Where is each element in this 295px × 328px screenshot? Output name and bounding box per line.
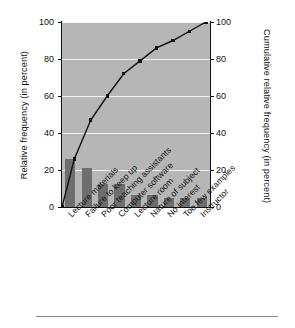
data-point-marker: [138, 59, 141, 62]
y-axis-left-label-text: Relative frequency (in percent): [19, 51, 29, 179]
data-point-marker: [155, 46, 158, 49]
data-point-marker: [106, 94, 109, 97]
data-point-marker: [188, 30, 191, 33]
data-point-marker: [122, 72, 125, 75]
y-axis-right-tick-mark: [211, 96, 214, 97]
footer-divider: [36, 316, 278, 317]
y-axis-right-label-text: Cumulative relative frequency (in percen…: [262, 29, 272, 203]
y-axis-left-tick-label: 60: [28, 92, 54, 101]
y-axis-left-tick-label: 100: [28, 18, 54, 27]
y-axis-right-tick-mark: [211, 170, 214, 171]
y-axis-right-tick-mark: [211, 59, 214, 60]
y-axis-right-tick-mark: [211, 133, 214, 134]
axis-line-right: [210, 21, 211, 208]
y-axis-left-tick-label: 80: [28, 55, 54, 64]
y-axis-left-label: Relative frequency (in percent): [16, 24, 32, 206]
pareto-chart-figure: Relative frequency (in percent) Cumulati…: [0, 0, 295, 328]
data-point-marker: [73, 157, 76, 160]
data-point-marker: [204, 22, 207, 24]
data-point-marker: [89, 118, 92, 121]
y-axis-left-tick-label: 20: [28, 166, 54, 175]
y-axis-right-tick-label: 60: [216, 92, 242, 101]
y-axis-right-label: Cumulative relative frequency (in percen…: [258, 18, 276, 214]
y-axis-right-tick-label: 100: [216, 18, 242, 27]
x-axis-category-labels: Lecture materialsFailure to keep upPoor …: [0, 208, 295, 308]
axis-line-left: [61, 21, 62, 208]
data-point-marker: [171, 39, 174, 42]
y-axis-right-tick-mark: [211, 22, 214, 23]
y-axis-left-tick-label: 40: [28, 129, 54, 138]
y-axis-right-tick-label: 80: [216, 55, 242, 64]
y-axis-right-tick-label: 40: [216, 129, 242, 138]
